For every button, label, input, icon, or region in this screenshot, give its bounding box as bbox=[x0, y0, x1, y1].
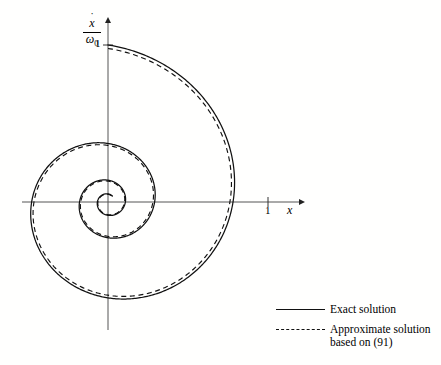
legend-item-approximate: Approximate solution based on (91) bbox=[276, 323, 441, 348]
y-axis-label-denominator: ω0 bbox=[78, 33, 106, 50]
omega-symbol: ω bbox=[86, 32, 94, 46]
legend-swatch-solid bbox=[276, 303, 325, 317]
y-axis-tick-label-1: 1 bbox=[95, 38, 101, 49]
x-dot-accent-icon: ˙ bbox=[90, 13, 94, 19]
curve-approximate-solution bbox=[33, 48, 231, 296]
phase-plane-figure: ˙x ω0 1 1 x Exact solution Approximate s… bbox=[0, 0, 441, 365]
legend-label-approximate: Approximate solution based on (91) bbox=[325, 323, 431, 348]
x-axis-tick-label-1: 1 bbox=[265, 205, 271, 216]
y-axis-label-numerator: ˙x bbox=[89, 18, 94, 29]
x-axis-label: x bbox=[287, 204, 292, 216]
legend-swatch-dashed bbox=[276, 323, 325, 337]
y-axis-label: ˙x ω0 bbox=[78, 13, 106, 50]
legend-item-exact: Exact solution bbox=[276, 303, 441, 317]
legend-label-exact: Exact solution bbox=[325, 303, 396, 316]
curve-exact-solution bbox=[31, 45, 235, 299]
legend: Exact solution Approximate solution base… bbox=[276, 303, 441, 354]
